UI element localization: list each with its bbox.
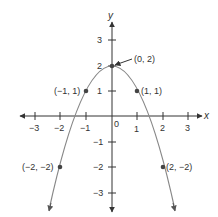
point-label-2-m2: (2, −2)	[166, 162, 192, 172]
x-tick-label: −2	[54, 123, 64, 133]
y-tick-label: 3	[97, 35, 102, 45]
x-tick-label: 3	[185, 123, 190, 133]
y-tick-label: −1	[93, 137, 103, 147]
x-tick-label: 2	[160, 123, 165, 133]
y-tick-label: 2	[97, 61, 102, 71]
point-m1-1	[84, 89, 89, 94]
point-label-1-1: (1, 1)	[141, 86, 162, 96]
origin-label: 0	[114, 119, 119, 129]
y-axis-label: y	[107, 10, 114, 21]
y-tick-label: 1	[97, 86, 102, 96]
point-label-m2-m2: (−2, −2)	[22, 162, 54, 172]
y-tick-label: −3	[93, 188, 103, 198]
vertex-pointer-arrow	[115, 59, 132, 65]
x-tick-label: −3	[29, 123, 39, 133]
parabola-chart: y x −3 −2 −1 0 1 2 3 3 2 1 −1 −2 −3 (0, …	[0, 0, 218, 217]
x-tick-label: −1	[80, 123, 90, 133]
y-tick-label: −2	[93, 162, 103, 172]
point-m2-m2	[58, 165, 63, 170]
x-tick-label: 1	[134, 124, 139, 134]
point-label-0-2: (0, 2)	[134, 54, 155, 64]
point-2-m2	[161, 165, 166, 170]
point-label-m1-1: (−1, 1)	[54, 86, 80, 96]
point-1-1	[135, 89, 140, 94]
x-axis-label: x	[203, 110, 210, 121]
point-0-2	[110, 64, 115, 69]
